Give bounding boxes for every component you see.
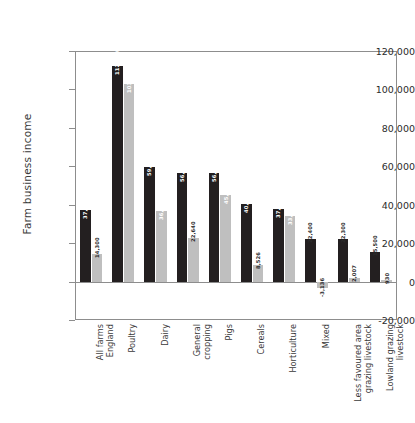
bar-value-label: 112,000 [114,51,120,75]
bar-value-label: -3,136 [319,277,325,296]
bar-value-label: 103,040 [126,68,132,92]
bar-group: 56,60022,640 [172,51,204,320]
y-axis-title: Farm business income [21,79,33,269]
bar-value-label: 45,280 [223,183,229,204]
bar-light [285,216,296,281]
bar-dark [209,173,220,282]
bar-value-label: 33,930 [287,205,293,226]
bar-value-label: 37,700 [275,198,281,219]
bar-value-label: 22,640 [190,221,196,242]
x-tick-label: All farms England [96,324,115,420]
bar-group: 22,400-3,136 [300,51,332,320]
x-tick-label: Less favoured area grazing livestock [354,324,373,420]
bar-value-label: 56,600 [211,161,217,182]
y-tick-mark [69,320,75,321]
x-tick-label: Horticulture [289,324,299,420]
x-tick-label: Cereals [257,324,267,420]
bar-light [156,211,167,282]
x-tick-label: Mixed [322,324,332,420]
bar-value-label: 36,953 [158,199,164,220]
bar-light [220,195,231,282]
bar-value-label: 22,300 [340,222,346,243]
bar-value-label: 930 [384,273,390,284]
bar-group: 59,60036,953 [139,51,171,320]
bar-dark [144,167,155,282]
bar-dark [112,66,123,281]
bar-value-label: 15,500 [372,235,378,256]
bar-value-label: 59,600 [146,155,152,176]
bar-dark [370,252,381,282]
bar-dark [80,210,91,281]
bar-group: 40,6008,526 [236,51,268,320]
bar-light [188,238,199,282]
x-tick-label: Lowland grazing livestock [386,324,405,420]
x-axis-labels: All farms EnglandPoultryDairyGeneral cro… [75,324,397,423]
bar-value-label: 56,600 [179,161,185,182]
x-tick-label: Dairy [161,324,171,420]
bar-group: 22,3002,007 [333,51,365,320]
bar-value-label: 40,600 [243,192,249,213]
bar-dark [338,239,349,282]
bar-group: 37,02014,300 [75,51,107,320]
bar-dark [241,204,252,282]
bar-chart: Farm business income 120,000100,00080,00… [0,0,415,423]
bar-group: 37,70033,930 [268,51,300,320]
bar-group: 56,60045,280 [204,51,236,320]
bar-value-label: 8,526 [255,252,261,269]
bar-group: 15,500930 [365,51,397,320]
bar-value-label: 14,300 [94,237,100,258]
bar-value-label: 37,020 [82,199,88,220]
bar-value-label: 22,400 [307,222,313,243]
bar-group: 112,000103,040 [107,51,139,320]
bar-groups: 37,02014,300112,000103,04059,60036,95356… [75,51,397,320]
bar-value-label: 2,007 [351,265,357,282]
bar-dark [177,173,188,282]
bar-dark [305,239,316,282]
bar-dark [273,209,284,281]
x-tick-label: Pigs [225,324,235,420]
bar-light [124,84,135,282]
bar-light [92,254,103,281]
x-tick-label: Poultry [128,324,138,420]
x-tick-label: General cropping [193,324,212,420]
